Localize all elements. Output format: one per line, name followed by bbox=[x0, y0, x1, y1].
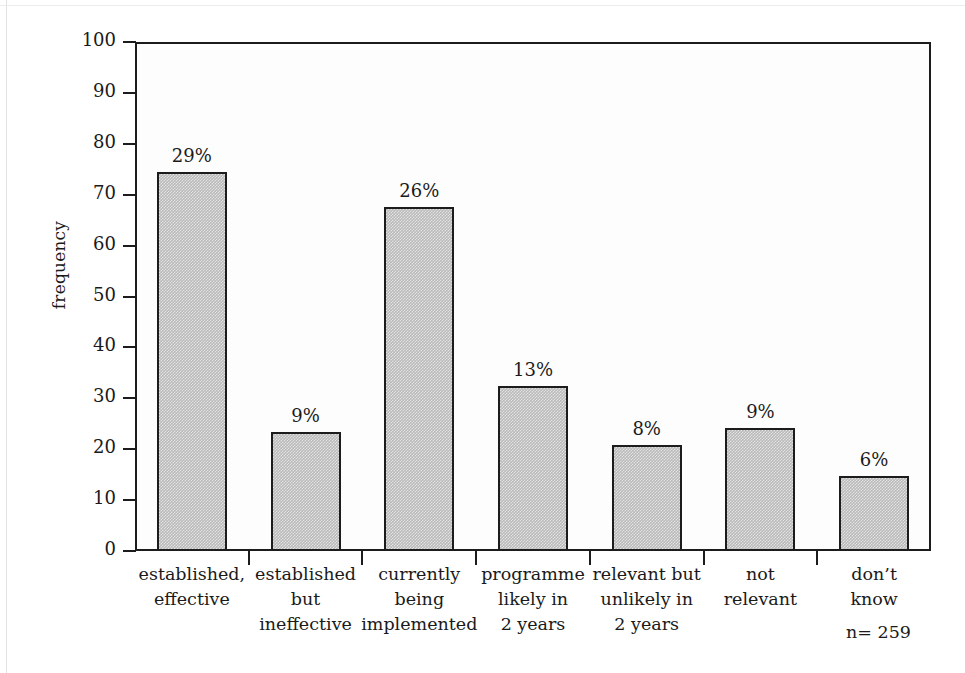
y-axis-tick-label: 70 bbox=[60, 182, 116, 203]
y-axis-tick-mark bbox=[123, 143, 136, 145]
sample-size-note: n= 259 bbox=[846, 622, 911, 642]
y-axis-tick-mark bbox=[123, 550, 136, 552]
bar-value-label: 26% bbox=[369, 180, 469, 201]
y-axis-tick-label: 60 bbox=[60, 233, 116, 254]
bar bbox=[498, 386, 568, 551]
y-axis-tick-mark bbox=[123, 41, 136, 43]
y-axis-tick-mark bbox=[123, 245, 136, 247]
bar-value-label: 29% bbox=[142, 145, 242, 166]
y-axis-tick-label: 10 bbox=[60, 487, 116, 508]
x-axis-category-label: relevant but unlikely in 2 years bbox=[587, 562, 707, 637]
y-axis-tick-mark bbox=[123, 194, 136, 196]
bar-chart: frequency 0102030405060708090100 29%9%26… bbox=[0, 0, 965, 673]
bar-value-label: 13% bbox=[483, 359, 583, 380]
y-axis-tick-label: 30 bbox=[60, 385, 116, 406]
bar-value-label: 6% bbox=[824, 449, 924, 470]
x-axis-category-label: established, effective bbox=[132, 562, 252, 612]
bar bbox=[839, 476, 909, 551]
y-axis-tick-mark bbox=[123, 499, 136, 501]
y-axis-tick-label: 20 bbox=[60, 436, 116, 457]
bar-value-label: 9% bbox=[256, 405, 356, 426]
y-axis-tick-label: 100 bbox=[60, 29, 116, 50]
y-axis-tick-mark bbox=[123, 346, 136, 348]
x-axis-category-label: not relevant bbox=[701, 562, 821, 612]
y-axis-tick-mark bbox=[123, 296, 136, 298]
x-axis-category-label: currently being implemented bbox=[359, 562, 479, 637]
bar bbox=[271, 432, 341, 551]
bar-value-label: 8% bbox=[597, 418, 697, 439]
x-axis-category-label: don’t know bbox=[814, 562, 934, 612]
y-axis-tick-mark bbox=[123, 397, 136, 399]
y-axis-tick-label: 0 bbox=[60, 538, 116, 559]
bar bbox=[612, 445, 682, 551]
x-axis-category-label: programme likely in 2 years bbox=[473, 562, 593, 637]
bar bbox=[157, 172, 227, 551]
x-axis-category-label: established but ineffective bbox=[246, 562, 366, 637]
bar-value-label: 9% bbox=[710, 401, 810, 422]
y-axis-tick-label: 40 bbox=[60, 334, 116, 355]
y-axis-tick-mark bbox=[123, 92, 136, 94]
y-axis-tick-label: 90 bbox=[60, 80, 116, 101]
bar bbox=[725, 428, 795, 551]
page-edge-artifact-left bbox=[6, 0, 7, 673]
y-axis-tick-label: 80 bbox=[60, 131, 116, 152]
y-axis-title: frequency bbox=[49, 200, 69, 330]
y-axis-tick-label: 50 bbox=[60, 284, 116, 305]
bar bbox=[384, 207, 454, 551]
y-axis-tick-mark bbox=[123, 448, 136, 450]
page-edge-artifact-top bbox=[0, 5, 965, 6]
